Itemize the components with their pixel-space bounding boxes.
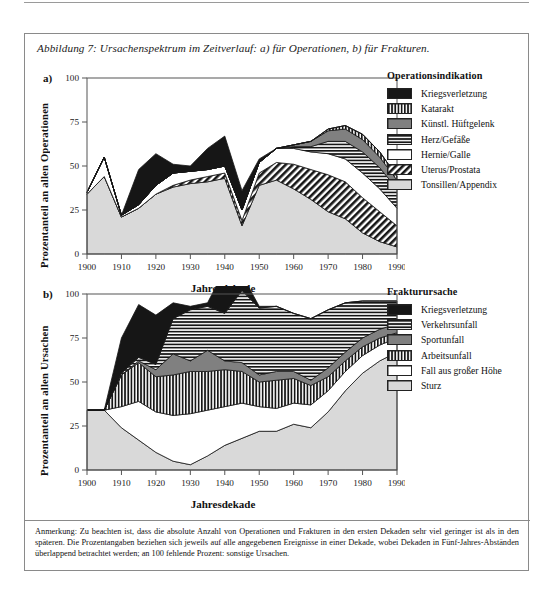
x-tick-label: 1910	[112, 478, 131, 488]
y-tick-label: 25	[70, 205, 80, 215]
panel-operationen: a) Prozentanteil an allen Operationen Ja…	[25, 70, 530, 302]
y-tick-label: 75	[70, 117, 80, 127]
legend-item-label: Arbeitsunfall	[421, 350, 472, 361]
legend-operationen: Operationsindikation KriegsverletzungKat…	[387, 70, 497, 194]
x-tick-label: 1970	[319, 262, 338, 272]
figure-container: Abbildung 7: Ursachenspektrum im Zeitver…	[24, 33, 529, 571]
x-tick-label: 1930	[181, 478, 200, 488]
legend-item-label: Verkehrsunfall	[421, 319, 477, 330]
legend-item[interactable]: Herz/Gefäße	[387, 134, 497, 145]
legend-item-label: Uterus/Prostata	[421, 164, 480, 175]
x-tick-label: 1900	[78, 262, 97, 272]
page-top-rule	[24, 2, 529, 3]
x-tick-label: 1960	[284, 478, 303, 488]
chart-frakturen: 0255075100190019101920193019401950196019…	[25, 286, 405, 498]
legend-swatch	[387, 118, 412, 129]
legend-item[interactable]: Kriegsverletzung	[387, 304, 502, 315]
legend-item-label: Katarakt	[421, 103, 454, 114]
x-tick-label: 1950	[250, 478, 269, 488]
legend-item-label: Herz/Gefäße	[421, 134, 470, 145]
legend-swatch	[387, 304, 412, 315]
legend-swatch	[387, 350, 412, 361]
y-tick-label: 0	[74, 465, 79, 475]
legend-b-title: Frakturursache	[387, 286, 502, 297]
x-tick-label: 1990	[388, 478, 405, 488]
legend-item[interactable]: Uterus/Prostata	[387, 164, 497, 175]
x-tick-label: 1940	[216, 262, 235, 272]
y-tick-label: 100	[65, 289, 79, 299]
legend-item-label: Hernie/Galle	[421, 149, 471, 160]
legend-item[interactable]: Hernie/Galle	[387, 149, 497, 160]
x-tick-label: 1920	[147, 478, 166, 488]
legend-item-label: Fall aus großer Höhe	[421, 365, 502, 376]
legend-swatch	[387, 334, 412, 345]
panel-b-ylabel: Prozentanteil an allen Ursachen	[39, 298, 50, 504]
y-tick-label: 25	[70, 421, 80, 431]
x-tick-label: 1980	[353, 262, 372, 272]
legend-item[interactable]: Sturz	[387, 380, 502, 391]
panel-a-ylabel: Prozentanteil an allen Operationen	[39, 82, 50, 288]
legend-swatch	[387, 179, 412, 190]
legend-item[interactable]: Sportunfall	[387, 334, 502, 345]
legend-item-label: Künstl. Hüftgelenk	[421, 118, 495, 129]
x-tick-label: 1900	[78, 478, 97, 488]
figure-caption: Abbildung 7: Ursachenspektrum im Zeitver…	[37, 42, 517, 54]
figure-note: Anmerkung: Zu beachten ist, dass die abs…	[35, 526, 519, 560]
legend-item[interactable]: Kriegsverletzung	[387, 88, 497, 99]
legend-swatch	[387, 103, 412, 114]
y-tick-label: 50	[70, 377, 80, 387]
x-tick-label: 1910	[112, 262, 131, 272]
legend-item[interactable]: Katarakt	[387, 103, 497, 114]
legend-swatch	[387, 365, 412, 376]
legend-item[interactable]: Verkehrsunfall	[387, 319, 502, 330]
legend-swatch	[387, 164, 412, 175]
legend-item-label: Kriegsverletzung	[421, 88, 487, 99]
x-tick-label: 1950	[250, 262, 269, 272]
legend-swatch	[387, 380, 412, 391]
x-tick-label: 1920	[147, 262, 166, 272]
legend-item-label: Tonsillen/Appendix	[421, 179, 497, 190]
x-tick-label: 1970	[319, 478, 338, 488]
y-tick-label: 75	[70, 333, 80, 343]
x-tick-label: 1930	[181, 262, 200, 272]
panel-b-xlabel: Jahresdekade	[63, 498, 383, 510]
y-tick-label: 0	[74, 249, 79, 259]
legend-swatch	[387, 134, 412, 145]
legend-item-label: Kriegsverletzung	[421, 304, 487, 315]
legend-swatch	[387, 319, 412, 330]
legend-item-label: Sportunfall	[421, 334, 464, 345]
chart-operationen: 0255075100190019101920193019401950196019…	[25, 70, 405, 282]
legend-swatch	[387, 149, 412, 160]
legend-item[interactable]: Künstl. Hüftgelenk	[387, 118, 497, 129]
x-tick-label: 1980	[353, 478, 372, 488]
legend-item[interactable]: Arbeitsunfall	[387, 350, 502, 361]
y-tick-label: 100	[65, 73, 79, 83]
legend-item[interactable]: Tonsillen/Appendix	[387, 179, 497, 190]
y-tick-label: 50	[70, 161, 80, 171]
legend-a-title: Operationsindikation	[387, 70, 497, 81]
x-tick-label: 1990	[388, 262, 405, 272]
legend-item[interactable]: Fall aus großer Höhe	[387, 365, 502, 376]
note-separator	[25, 520, 530, 521]
legend-frakturen: Frakturursache KriegsverletzungVerkehrsu…	[387, 286, 502, 395]
legend-swatch	[387, 88, 412, 99]
x-tick-label: 1940	[216, 478, 235, 488]
x-tick-label: 1960	[284, 262, 303, 272]
panel-frakturen: b) Prozentanteil an allen Ursachen Jahre…	[25, 286, 530, 518]
legend-item-label: Sturz	[421, 380, 441, 391]
